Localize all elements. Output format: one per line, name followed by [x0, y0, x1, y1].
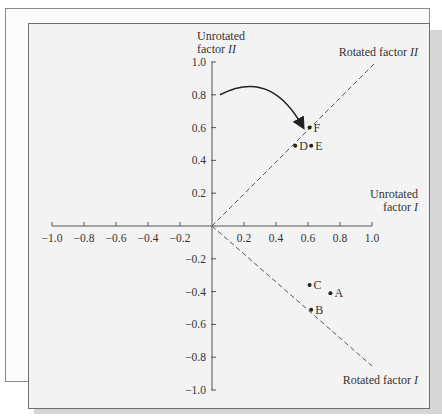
x-tick-label: 0.6 [301, 232, 316, 244]
x-tick-label: 1.0 [365, 232, 380, 244]
x-tick-label: 0.4 [269, 232, 284, 244]
data-point-F [308, 126, 312, 130]
point-label-C: C [314, 278, 322, 292]
data-point-D [293, 144, 297, 148]
point-label-E: E [315, 139, 322, 153]
x-axis-label-line1: Unrotated [370, 187, 418, 201]
rotated-factor-i-label: Rotated factor I [343, 373, 419, 387]
data-point-E [309, 144, 313, 148]
curved-arrow-icon [220, 86, 303, 127]
y-tick-label: 1.0 [192, 56, 207, 68]
point-label-F: F [314, 121, 321, 135]
y-tick-label: 0.6 [192, 122, 207, 134]
x-tick-label: −1.0 [42, 232, 63, 244]
x-tick-label: −0.4 [138, 232, 159, 244]
rotated-factor-ii-label: Rotated factor II [339, 45, 419, 59]
x-tick-label: −0.6 [106, 232, 127, 244]
data-point-A [328, 291, 332, 295]
y-axis-label-line2: factor II [197, 42, 237, 56]
y-tick-label: −0.4 [185, 286, 206, 298]
rotation-arrow [220, 86, 303, 127]
x-tick-label: 0.8 [333, 232, 348, 244]
data-point-B [309, 308, 313, 312]
y-tick-label: 0.4 [192, 154, 207, 166]
rotated-axes [212, 62, 376, 366]
data-points: ABCDEF [293, 121, 343, 317]
rotated-factor-ii-line [212, 62, 376, 226]
x-tick-label: −0.8 [74, 232, 95, 244]
rotated-factor-i-line [212, 226, 372, 366]
y-tick-label: 0.2 [192, 187, 207, 199]
y-tick-label: −0.6 [185, 318, 206, 330]
y-tick-label: −0.2 [185, 253, 206, 265]
data-point-C [308, 283, 312, 287]
point-label-A: A [334, 286, 343, 300]
point-label-D: D [299, 139, 308, 153]
axes: −1.0−0.8−0.6−0.4−0.20.20.40.60.81.01.00.… [42, 56, 380, 396]
x-axis-label-line2: factor I [383, 200, 419, 214]
x-tick-label: 0.2 [237, 232, 252, 244]
y-axis-label-line1: Unrotated [197, 29, 245, 43]
point-label-B: B [315, 303, 323, 317]
y-tick-label: 0.8 [192, 89, 207, 101]
x-tick-label: −0.2 [170, 232, 191, 244]
y-tick-label: −0.8 [185, 351, 206, 363]
y-tick-label: −1.0 [185, 384, 206, 396]
